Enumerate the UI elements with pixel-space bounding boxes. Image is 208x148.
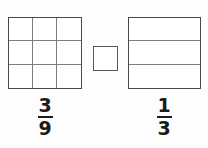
right-fraction-denominator: 3 <box>142 119 186 138</box>
band-row[interactable] <box>129 18 200 41</box>
grid-cell[interactable] <box>33 18 57 41</box>
right-fraction-label: 1 3 <box>142 96 186 138</box>
left-fraction-numerator: 3 <box>23 96 67 115</box>
grid-cell[interactable] <box>9 18 33 41</box>
right-fraction-numerator: 1 <box>142 96 186 115</box>
comparison-answer-box[interactable] <box>93 46 118 71</box>
left-fraction-model-grid <box>8 17 82 89</box>
right-fraction-model-bands <box>128 17 201 89</box>
left-fraction-denominator: 9 <box>23 119 67 138</box>
band-row[interactable] <box>129 41 200 64</box>
left-fraction-label: 3 9 <box>23 96 67 138</box>
band-row[interactable] <box>129 65 200 88</box>
grid-cell[interactable] <box>57 41 81 64</box>
grid-cell[interactable] <box>57 18 81 41</box>
grid-cell[interactable] <box>33 65 57 88</box>
grid-cell[interactable] <box>33 41 57 64</box>
fraction-comparison-worksheet: 3 9 1 3 <box>0 0 208 148</box>
grid-cell[interactable] <box>9 41 33 64</box>
grid-cell[interactable] <box>9 65 33 88</box>
grid-cell[interactable] <box>57 65 81 88</box>
